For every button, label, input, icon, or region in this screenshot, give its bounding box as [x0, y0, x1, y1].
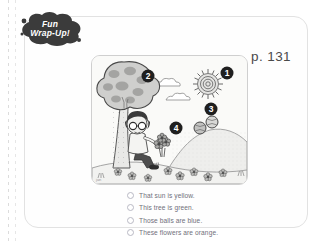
marker-1-label: 1: [225, 68, 230, 78]
option-label: These flowers are orange.: [139, 229, 218, 236]
marker-2: 2: [142, 70, 155, 83]
list-item[interactable]: Those balls are blue.: [127, 214, 297, 226]
artist-mark: jan: [95, 177, 101, 182]
worksheet-card: p. 131: [24, 16, 308, 228]
list-item[interactable]: These flowers are orange.: [127, 227, 297, 239]
page-number: p. 131: [251, 49, 291, 64]
illustration-panel: 2 1 3 4 jan: [91, 55, 248, 185]
sun-illustration: [193, 69, 223, 99]
radio-bullet-icon[interactable]: [127, 204, 134, 211]
option-label: Those balls are blue.: [139, 217, 202, 224]
marker-2-label: 2: [146, 71, 151, 81]
option-label: This tree is green.: [139, 204, 194, 211]
list-item[interactable]: This tree is green.: [127, 202, 297, 214]
option-label: That sun is yellow.: [139, 192, 195, 199]
marker-1: 1: [221, 67, 234, 80]
marker-3: 3: [205, 103, 218, 116]
fun-wrap-up-badge: Fun Wrap-Up!: [16, 12, 84, 46]
binder-guide-line-outer: [8, 0, 9, 241]
radio-bullet-icon[interactable]: [127, 229, 134, 236]
answer-options-list: That sun is yellow. This tree is green. …: [127, 189, 297, 239]
marker-3-label: 3: [209, 104, 214, 114]
radio-bullet-icon[interactable]: [127, 217, 134, 224]
radio-bullet-icon[interactable]: [127, 192, 134, 199]
list-item[interactable]: That sun is yellow.: [127, 189, 297, 201]
badge-blob-icon: [16, 12, 84, 46]
marker-4: 4: [170, 122, 183, 135]
marker-4-label: 4: [174, 123, 179, 133]
